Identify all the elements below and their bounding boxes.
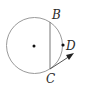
label-b: B: [51, 8, 61, 22]
circle-diagram: B D C: [0, 0, 89, 87]
point-d: [61, 43, 64, 46]
arrowhead-icon: [66, 53, 74, 60]
diagram-canvas: B D C: [0, 0, 89, 87]
label-d: D: [65, 39, 76, 53]
center-point: [33, 45, 36, 48]
label-c: C: [46, 72, 55, 86]
